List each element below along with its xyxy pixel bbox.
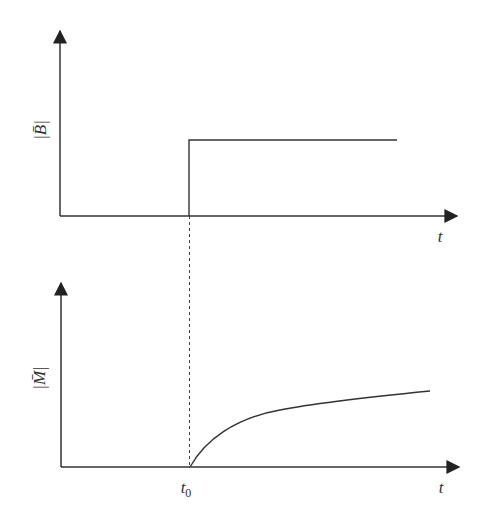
diagram-canvas: |B̄| t |M̄| t t0 xyxy=(0,0,482,517)
bottom-plot: |M̄| t t0 xyxy=(30,283,459,500)
m-response-curve xyxy=(190,391,430,467)
bottom-y-label: |M̄| xyxy=(30,366,49,390)
t0-label: t0 xyxy=(181,478,192,500)
bottom-x-label: t xyxy=(439,478,445,497)
t0-subscript: 0 xyxy=(185,486,191,500)
b-label: |B̄| xyxy=(31,120,50,140)
top-x-label: t xyxy=(438,227,444,246)
m-label: |M̄| xyxy=(30,366,49,390)
b-step-curve xyxy=(189,140,397,216)
top-y-label: |B̄| xyxy=(31,120,50,140)
top-plot: |B̄| t xyxy=(31,31,457,246)
